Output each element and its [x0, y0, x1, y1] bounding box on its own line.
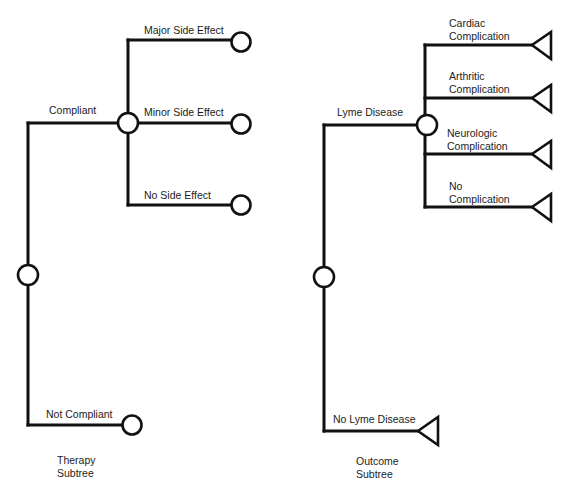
neurologic-label-line2: Complication	[447, 140, 508, 153]
lyme-disease-chance-node	[417, 115, 437, 135]
no-complication-label-line1: No	[449, 180, 510, 193]
outcome-subtree	[314, 32, 551, 445]
minor-side-effect-terminal-node	[232, 115, 251, 134]
outcome-root-chance-node	[314, 267, 334, 287]
no-complication-triangle-node	[532, 194, 551, 221]
neurologic-triangle-node	[532, 141, 551, 168]
therapy-subtree-caption: Therapy Subtree	[57, 454, 96, 479]
not-compliant-terminal-node	[123, 416, 142, 435]
no-side-effect-terminal-node	[232, 196, 251, 215]
no-lyme-disease-triangle-node	[418, 417, 438, 445]
major-side-effect-terminal-node	[232, 33, 251, 52]
cardiac-triangle-node	[532, 32, 551, 59]
therapy-root-chance-node	[18, 265, 38, 285]
cardiac-complication-label: Cardiac Complication	[449, 17, 510, 42]
compliant-chance-node	[118, 113, 138, 133]
arthritic-label-line1: Arthritic	[449, 70, 510, 83]
not-compliant-label: Not Compliant	[46, 408, 113, 421]
arthritic-triangle-node	[532, 85, 551, 112]
compliant-label: Compliant	[49, 104, 96, 117]
therapy-subtree	[18, 33, 251, 435]
neurologic-complication-label: Neurologic Complication	[447, 127, 508, 152]
neurologic-label-line1: Neurologic	[447, 127, 508, 140]
no-side-effect-label: No Side Effect	[144, 189, 211, 202]
arthritic-complication-label: Arthritic Complication	[449, 70, 510, 95]
no-complication-label-line2: Complication	[449, 193, 510, 206]
lyme-disease-label: Lyme Disease	[337, 106, 403, 119]
minor-side-effect-label: Minor Side Effect	[144, 106, 224, 119]
cardiac-label-line1: Cardiac	[449, 17, 510, 30]
outcome-caption-line1: Outcome	[356, 455, 399, 468]
outcome-caption-line2: Subtree	[356, 468, 399, 481]
major-side-effect-label: Major Side Effect	[144, 24, 224, 37]
therapy-caption-line1: Therapy	[57, 454, 96, 467]
no-complication-label: No Complication	[449, 180, 510, 205]
outcome-subtree-caption: Outcome Subtree	[356, 455, 399, 480]
therapy-caption-line2: Subtree	[57, 467, 96, 480]
no-lyme-disease-label: No Lyme Disease	[333, 413, 415, 426]
arthritic-label-line2: Complication	[449, 83, 510, 96]
cardiac-label-line2: Complication	[449, 30, 510, 43]
